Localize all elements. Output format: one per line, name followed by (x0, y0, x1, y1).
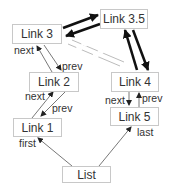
node-link-3: Link 3 (12, 24, 62, 44)
label-link1-prev: prev (52, 103, 72, 114)
node-label: List (77, 168, 96, 182)
node-label: Link 3 (21, 27, 53, 41)
node-link-1: Link 1 (13, 118, 62, 137)
node-label: Link 1 (21, 121, 53, 135)
node-label: Link 2 (38, 75, 70, 89)
arrow-list-last-5 (99, 127, 131, 166)
arrow-3-prev-2 (44, 45, 61, 70)
arrow-list-first-1 (38, 138, 72, 166)
label-link3-next: next (14, 45, 34, 56)
label-first: first (19, 138, 36, 149)
label-link2-next: next (25, 91, 45, 102)
node-label: Link 5 (118, 110, 150, 124)
label-link4-next: next (105, 95, 125, 106)
node-link-3-5: Link 3.5 (100, 9, 148, 29)
node-link-2: Link 2 (29, 72, 79, 92)
node-label: Link 3.5 (103, 12, 145, 26)
label-link2-prev: prev (62, 61, 82, 72)
label-last: last (137, 127, 153, 138)
node-list: List (62, 166, 111, 183)
node-label: Link 4 (119, 75, 151, 89)
node-link-5: Link 5 (110, 107, 159, 126)
label-link4-prev: prev (142, 93, 162, 104)
arrow-2-next-3 (37, 46, 52, 72)
node-link-4: Link 4 (111, 72, 159, 92)
